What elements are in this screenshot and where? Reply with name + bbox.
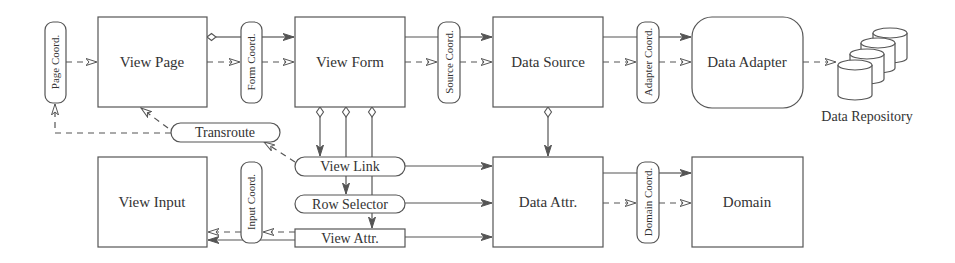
data-adapter-label: Data Adapter bbox=[707, 54, 787, 70]
node-data-source: Data Source bbox=[493, 17, 603, 107]
edge-datasource-dataattr bbox=[545, 107, 552, 156]
edge-transroute-pagecoord bbox=[55, 104, 171, 133]
domain-coord-label: Domain Coord. bbox=[642, 168, 654, 237]
adapter-coord-label: Adapter Coord. bbox=[642, 28, 654, 97]
view-form-label: View Form bbox=[316, 54, 384, 70]
node-data-attr: Data Attr. bbox=[493, 157, 603, 247]
edge-viewlink-transroute bbox=[264, 142, 295, 162]
data-source-label: Data Source bbox=[511, 54, 585, 70]
aggregation-diamond-icon bbox=[317, 107, 324, 117]
view-input-label: View Input bbox=[118, 194, 186, 210]
node-view-link: View Link bbox=[295, 157, 405, 176]
data-repository-icon bbox=[838, 28, 907, 100]
page-coord-label: Page Coord. bbox=[49, 35, 61, 90]
node-domain: Domain bbox=[692, 157, 803, 247]
architecture-diagram: View Page View Form Data Source Data Ada… bbox=[0, 0, 955, 263]
node-view-input: View Input bbox=[98, 157, 207, 247]
aggregation-diamond-icon bbox=[369, 107, 376, 117]
coord-domain: Domain Coord. bbox=[637, 162, 659, 243]
aggregation-diamond-icon bbox=[545, 107, 552, 117]
coord-adapter: Adapter Coord. bbox=[637, 22, 659, 103]
node-data-adapter: Data Adapter bbox=[692, 17, 803, 108]
source-coord-label: Source Coord. bbox=[443, 30, 455, 94]
edge-viewform-viewlink bbox=[317, 107, 324, 156]
data-repository-label: Data Repository bbox=[821, 109, 912, 124]
form-coord-label: Form Coord. bbox=[245, 33, 257, 90]
row-selector-label: Row Selector bbox=[312, 197, 388, 212]
aggregation-diamond-icon bbox=[207, 34, 216, 41]
data-attr-label: Data Attr. bbox=[519, 194, 577, 210]
view-attr-label: View Attr. bbox=[321, 231, 379, 246]
view-page-label: View Page bbox=[120, 54, 185, 70]
domain-label: Domain bbox=[723, 194, 772, 210]
coord-input: Input Coord. bbox=[241, 162, 262, 243]
node-transroute: Transroute bbox=[171, 123, 280, 142]
aggregation-diamond-icon bbox=[343, 107, 350, 117]
edge-transroute-viewpage bbox=[141, 108, 168, 128]
view-link-label: View Link bbox=[320, 159, 379, 174]
coord-form: Form Coord. bbox=[241, 22, 262, 103]
coord-source: Source Coord. bbox=[438, 22, 460, 103]
node-view-page: View Page bbox=[98, 17, 207, 107]
node-view-attr: View Attr. bbox=[295, 229, 405, 247]
node-view-form: View Form bbox=[295, 17, 405, 107]
input-coord-label: Input Coord. bbox=[245, 174, 257, 230]
edge-viewform-rowselector bbox=[343, 107, 350, 157]
transroute-label: Transroute bbox=[195, 125, 255, 140]
node-row-selector: Row Selector bbox=[295, 195, 405, 213]
coord-page: Page Coord. bbox=[45, 22, 66, 103]
